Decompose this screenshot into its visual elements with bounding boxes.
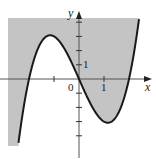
x-tick-label: 1 [101,81,107,93]
x-axis-label: x [144,80,151,94]
y-tick-label: 1 [83,58,89,70]
origin-label: 0 [68,81,74,93]
y-axis-arrow-icon [76,11,82,19]
inequality-graph: y x 0 1 1 [0,0,156,159]
y-axis-label: y [67,6,74,20]
